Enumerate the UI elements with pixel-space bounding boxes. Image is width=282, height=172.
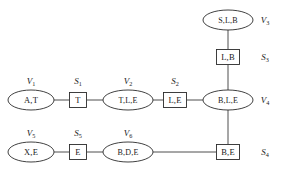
clique-node-v2: T,L,E V2 [103, 76, 153, 110]
junction-tree-diagram: A,T V1 T S1 T,L,E V2 L,E S2 S,L,B V3 L,B… [0, 0, 282, 172]
separator-label-s2: L,E [168, 95, 181, 105]
separator-tag-s4: S4 [261, 147, 269, 158]
separator-label-s1: T [75, 95, 81, 105]
clique-tag-v5: V5 [27, 128, 36, 139]
separator-tag-s5: S5 [74, 128, 82, 139]
diagram-canvas: A,T V1 T S1 T,L,E V2 L,E S2 S,L,B V3 L,B… [0, 0, 282, 172]
separator-node-s4: B,E S4 [217, 145, 269, 160]
separator-label-s5: E [75, 147, 80, 157]
clique-node-v5: X,E V5 [8, 128, 54, 162]
clique-node-v4: B,L,E V4 [203, 90, 269, 110]
clique-tag-v2: V2 [124, 76, 133, 87]
separator-node-s5: E S5 [70, 128, 87, 160]
separator-node-s1: T S1 [70, 76, 87, 108]
clique-node-v1: A,T V1 [8, 76, 54, 110]
clique-tag-v1: V1 [27, 76, 36, 87]
separator-node-s2: L,E S2 [164, 76, 187, 108]
clique-label-v5: X,E [24, 147, 38, 157]
clique-label-v3: S,L,B [218, 16, 238, 25]
clique-node-v3: S,L,B V3 [203, 10, 269, 30]
separator-tag-s3: S3 [261, 52, 269, 63]
clique-label-v4: B,L,E [218, 96, 238, 105]
clique-label-v1: A,T [24, 95, 39, 105]
clique-label-v2: T,L,E [118, 96, 137, 105]
separator-label-s4: B,E [221, 147, 235, 157]
clique-tag-v3: V3 [261, 15, 270, 26]
clique-tag-v4: V4 [261, 95, 270, 106]
separator-tag-s2: S2 [171, 76, 179, 87]
clique-label-v6: B,D,E [118, 148, 139, 157]
separator-node-s3: L,B S3 [217, 50, 269, 65]
separator-label-s3: L,B [221, 52, 235, 62]
separator-tag-s1: S1 [74, 76, 82, 87]
clique-tag-v6: V6 [124, 128, 133, 139]
clique-node-v6: B,D,E V6 [103, 128, 153, 162]
